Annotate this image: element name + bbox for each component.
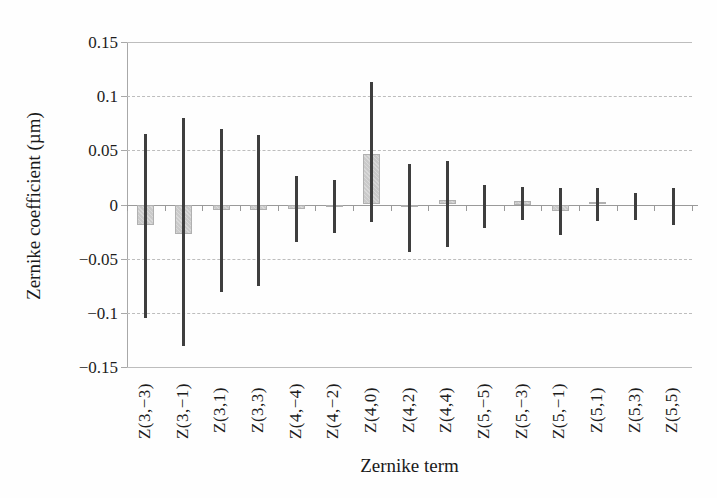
x-axis-tick xyxy=(202,206,203,211)
x-tick-label: Z(3,3) xyxy=(249,387,266,433)
x-tick-label: Z(5,1) xyxy=(588,387,605,433)
error-bar-Z55 xyxy=(672,188,675,225)
y-tick-label: 0.05 xyxy=(58,142,118,159)
x-tick-label: Z(5,5) xyxy=(663,387,680,433)
x-axis-tick xyxy=(240,206,241,211)
y-axis-tick xyxy=(121,313,127,314)
error-bar-Z5−3 xyxy=(521,187,524,220)
gridline xyxy=(127,150,692,151)
x-tick-label: Z(4,2) xyxy=(400,387,417,433)
y-tick-label: −0.05 xyxy=(58,251,118,268)
x-tick-label: Z(4,4) xyxy=(437,387,454,433)
y-axis-tick xyxy=(121,205,127,206)
x-axis-tick xyxy=(353,206,354,211)
error-bar-Z40 xyxy=(370,82,373,222)
x-tick-label: Z(4,−4) xyxy=(287,383,304,439)
x-axis-tick xyxy=(617,206,618,211)
x-axis-tick xyxy=(278,206,279,211)
error-bar-Z42 xyxy=(408,164,411,252)
plot-area xyxy=(127,42,692,367)
x-tick-label: Z(3,−1) xyxy=(174,383,191,439)
error-bar-Z53 xyxy=(634,193,637,220)
y-tick-label: 0.1 xyxy=(58,88,118,105)
figure-canvas: Zernike coefficient (µm) Zernike term 0.… xyxy=(0,0,717,498)
gridline xyxy=(127,259,692,260)
x-axis-tick xyxy=(165,206,166,211)
error-bar-Z4−2 xyxy=(333,180,336,233)
y-axis-tick xyxy=(121,367,127,368)
x-tick-label: Z(5,−5) xyxy=(475,383,492,439)
error-bar-Z3−1 xyxy=(182,118,185,347)
x-axis-tick xyxy=(692,206,693,211)
x-axis-tick xyxy=(127,206,128,211)
y-tick-label: 0.15 xyxy=(58,34,118,51)
error-bar-Z33 xyxy=(257,135,260,286)
x-tick-label: Z(3,1) xyxy=(211,387,228,433)
error-bar-Z3−3 xyxy=(144,134,147,318)
x-tick-label: Z(5,3) xyxy=(626,387,643,433)
error-bar-Z5−1 xyxy=(559,188,562,235)
y-tick-label: −0.1 xyxy=(58,305,118,322)
x-axis-tick xyxy=(504,206,505,211)
gridline xyxy=(127,42,692,43)
y-axis-title: Zernike coefficient (µm) xyxy=(23,96,45,316)
y-axis-tick xyxy=(121,150,127,151)
y-tick-label: −0.15 xyxy=(58,359,118,376)
x-tick-label: Z(5,−3) xyxy=(513,383,530,439)
x-axis-tick xyxy=(428,206,429,211)
error-bar-Z44 xyxy=(446,161,449,247)
y-axis-tick xyxy=(121,259,127,260)
error-bar-Z5−5 xyxy=(483,185,486,228)
error-bar-Z51 xyxy=(596,188,599,221)
y-axis-tick xyxy=(121,42,127,43)
x-tick-label: Z(4,0) xyxy=(362,387,379,433)
gridline xyxy=(127,96,692,97)
gridline xyxy=(127,313,692,314)
x-tick-label: Z(3,−3) xyxy=(136,383,153,439)
x-axis-tick xyxy=(466,206,467,211)
x-axis-tick xyxy=(579,206,580,211)
x-axis-tick xyxy=(391,206,392,211)
x-axis-tick xyxy=(654,206,655,211)
error-bar-Z4−4 xyxy=(295,176,298,242)
y-tick-label: 0 xyxy=(58,197,118,214)
x-axis-tick xyxy=(541,206,542,211)
x-axis-title: Zernike term xyxy=(127,455,692,477)
x-tick-label: Z(5,−1) xyxy=(550,383,567,439)
x-axis-tick xyxy=(315,206,316,211)
x-tick-label: Z(4,−2) xyxy=(324,383,341,439)
gridline xyxy=(127,367,692,368)
y-axis-tick xyxy=(121,96,127,97)
error-bar-Z31 xyxy=(220,129,223,293)
